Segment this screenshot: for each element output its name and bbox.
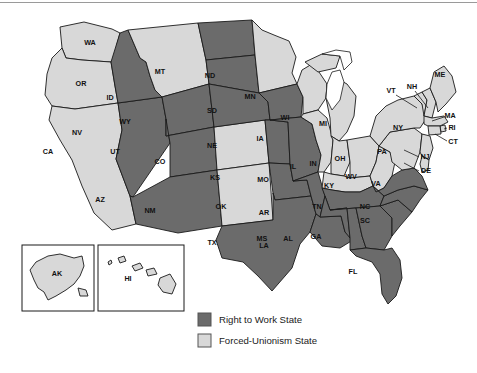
state-label-HI: HI [124, 274, 131, 283]
state-label-TN: TN [312, 202, 322, 211]
state-label-NH: NH [407, 82, 417, 91]
state-label-VT: VT [386, 86, 396, 95]
state-label-OR: OR [76, 79, 88, 88]
state-label-NV: NV [72, 128, 82, 137]
state-label-CO: CO [155, 157, 166, 166]
state-label-DE: DE [421, 166, 431, 175]
state-label-AL: AL [283, 234, 293, 243]
state-label-SC: SC [360, 216, 370, 225]
state-label-FL: FL [349, 267, 358, 276]
state-label-MO: MO [257, 175, 269, 184]
state-CO[interactable] [214, 120, 269, 170]
state-label-AZ: AZ [95, 195, 105, 204]
state-label-KS: KS [210, 173, 220, 182]
state-label-MN: MN [244, 92, 255, 101]
state-label-ME: ME [435, 70, 446, 79]
leader-line-CT [435, 134, 447, 141]
state-label-NJ: NJ [420, 152, 429, 161]
state-label-OH: OH [335, 154, 346, 163]
state-FL[interactable] [350, 248, 402, 304]
us-right-to-work-map: WA OR CA NV ID MT WY UT AZ CO NM ND SD N… [0, 0, 477, 373]
state-label-OK: OK [216, 202, 228, 211]
state-label-WV: WV [345, 172, 357, 181]
state-label-VA: VA [371, 179, 380, 188]
legend-swatch-right-to-work [198, 313, 211, 326]
state-label-WI: WI [281, 113, 290, 122]
state-label-TX: TX [207, 238, 216, 247]
map-legend: Right to Work State Forced-Unionism Stat… [198, 313, 317, 347]
state-MN[interactable] [252, 20, 297, 93]
state-label-AK: AK [52, 269, 63, 278]
state-label-AR: AR [259, 208, 270, 217]
state-label-PA: PA [377, 147, 386, 156]
state-label-RI: RI [448, 123, 455, 132]
legend-label-forced-unionism: Forced-Unionism State [219, 335, 317, 346]
state-label-IA: IA [256, 134, 263, 143]
state-label-IL: IL [290, 162, 297, 171]
state-label-CT: CT [448, 137, 458, 146]
state-label-NY: NY [393, 123, 403, 132]
state-CT[interactable] [428, 126, 441, 135]
legend-label-right-to-work: Right to Work State [219, 314, 302, 325]
state-label-GA: GA [311, 232, 322, 241]
state-label-ID: ID [106, 93, 113, 102]
state-KS[interactable] [265, 120, 290, 164]
state-label-MS: MS [257, 234, 268, 243]
state-label-UT: UT [110, 147, 120, 156]
state-label-CA: CA [43, 147, 53, 156]
state-label-ND: ND [205, 71, 215, 80]
state-label-NM: NM [144, 206, 155, 215]
legend-swatch-forced-unionism [198, 334, 211, 347]
state-label-MT: MT [155, 67, 166, 76]
state-label-MI: MI [319, 119, 327, 128]
state-label-NE: NE [207, 141, 217, 150]
state-label-MA: MA [444, 111, 455, 120]
state-ND[interactable] [198, 20, 255, 60]
state-label-WY: WY [119, 117, 131, 126]
state-label-NC: NC [360, 202, 370, 211]
state-label-KY: KY [324, 181, 334, 190]
state-label-WA: WA [84, 38, 96, 47]
state-label-IN: IN [309, 159, 316, 168]
state-label-SD: SD [207, 106, 217, 115]
